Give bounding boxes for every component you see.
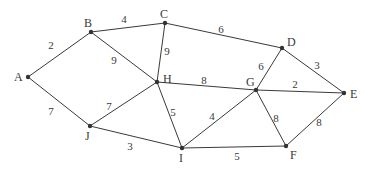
edge-i-g — [182, 90, 256, 148]
edge-weight-c-d: 6 — [218, 23, 224, 35]
node-a — [26, 75, 30, 79]
edge-weight-d-g: 6 — [258, 60, 264, 72]
node-h — [155, 80, 159, 84]
edge-j-i — [90, 126, 182, 148]
node-b — [89, 30, 93, 34]
edge-weight-a-j: 7 — [48, 105, 54, 117]
edge-weight-i-g: 4 — [209, 110, 215, 122]
edge-weight-b-c: 4 — [121, 13, 127, 25]
node-e — [342, 91, 346, 95]
node-i — [180, 146, 184, 150]
node-label-c: C — [160, 7, 168, 21]
edge-weight-d-e: 3 — [314, 59, 320, 71]
node-label-f: F — [290, 148, 297, 162]
edge-weight-i-f: 5 — [234, 150, 240, 162]
edge-a-j — [28, 77, 90, 126]
node-label-g: G — [246, 75, 255, 89]
edge-g-e — [256, 90, 344, 93]
edge-g-f — [256, 90, 286, 146]
edge-weight-b-h: 9 — [111, 54, 117, 66]
node-label-a: A — [14, 70, 23, 84]
node-label-b: B — [84, 16, 92, 30]
edge-b-h — [91, 32, 157, 82]
edge-weight-a-b: 2 — [48, 39, 54, 51]
node-label-d: D — [287, 35, 296, 49]
edge-weight-c-h: 9 — [164, 45, 170, 57]
node-label-i: I — [179, 151, 183, 165]
node-label-h: H — [163, 72, 172, 86]
edge-weight-h-g: 8 — [201, 74, 207, 86]
graph-nodes — [26, 21, 346, 150]
edge-weight-g-f: 8 — [273, 112, 279, 124]
node-label-j: J — [85, 129, 90, 143]
edge-weight-g-e: 2 — [292, 78, 298, 90]
edge-j-h — [90, 82, 157, 126]
edge-f-e — [286, 93, 344, 146]
edge-i-f — [182, 146, 286, 148]
node-d — [280, 46, 284, 50]
node-c — [163, 21, 167, 25]
edge-weight-j-h: 7 — [106, 100, 112, 112]
node-j — [88, 124, 92, 128]
node-label-e: E — [350, 87, 357, 101]
node-f — [284, 144, 288, 148]
edge-a-b — [28, 32, 91, 77]
edge-weight-j-i: 3 — [127, 140, 133, 152]
node-labels: ABCDEFGHIJ — [14, 7, 357, 165]
weighted-graph-diagram: 24639986277548835 ABCDEFGHIJ — [0, 0, 366, 172]
edge-weight-f-e: 8 — [316, 116, 322, 128]
edge-b-c — [91, 23, 165, 32]
edge-weight-h-i: 5 — [170, 106, 176, 118]
